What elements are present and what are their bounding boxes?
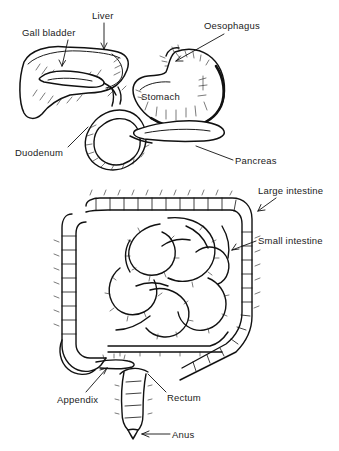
small-intestine-coil-8	[116, 316, 150, 330]
anatomy-figure	[0, 0, 339, 451]
pancreas-organ	[130, 121, 224, 143]
appendix-organ	[96, 354, 134, 369]
small-intestine-coil-6	[178, 278, 226, 330]
small-intestine-coil-9	[222, 226, 229, 258]
small-intestine-ileum-upper	[108, 332, 228, 346]
label-rectum: Rectum	[167, 392, 201, 403]
colon-left-inner	[76, 222, 106, 358]
label-gall-bladder: Gall bladder	[22, 27, 76, 38]
label-liver: Liver	[92, 10, 114, 21]
label-oesophagus: Oesophagus	[204, 20, 260, 31]
transverse-descending-outer	[86, 198, 252, 380]
small-intestine-coil-1	[129, 224, 175, 275]
label-stomach: Stomach	[141, 91, 180, 102]
small-intestine-coil-11	[136, 283, 168, 286]
small-intestine-organ	[105, 218, 229, 356]
label-anus: Anus	[172, 429, 194, 440]
rectum-organ	[115, 368, 152, 431]
hepatic-duct	[118, 87, 121, 104]
anus-outline	[128, 429, 138, 439]
common-bile-duct	[112, 88, 114, 106]
small-intestine-coil-4	[146, 288, 189, 336]
small-intestine-coil-10	[186, 226, 208, 248]
small-intestine-coil-5	[196, 247, 229, 284]
rectum-texture	[125, 381, 141, 418]
label-pancreas: Pancreas	[235, 155, 277, 166]
label-small-intestine: Small intestine	[258, 235, 323, 246]
rectum-right-wall	[137, 374, 146, 431]
label-large-intestine: Large intestine	[258, 185, 323, 196]
small-intestine-coil-12	[162, 239, 190, 246]
ascending-colon-left-outer	[62, 214, 106, 371]
digestive-system-diagram: Gall bladderLiverOesophagusStomachDuoden…	[0, 0, 339, 451]
leader-pancreas	[196, 146, 233, 160]
rectum-hatch	[115, 385, 152, 414]
pancreas-outline	[134, 121, 225, 142]
label-duodenum: Duodenum	[15, 147, 63, 158]
arrowhead-small-intestine	[232, 244, 239, 250]
label-appendix: Appendix	[57, 394, 98, 405]
duodenum-inner-loop	[94, 119, 140, 165]
rectum-left-wall	[122, 372, 128, 430]
leader-rectum	[148, 374, 166, 392]
anus-organ	[128, 429, 138, 439]
